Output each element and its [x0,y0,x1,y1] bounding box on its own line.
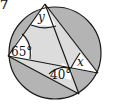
label-x: x [77,55,84,69]
label-40: 40° [50,68,71,82]
geometry-diagram: y 65° 40° x [0,0,115,107]
label-y: y [37,10,45,24]
label-65: 65° [11,45,32,59]
